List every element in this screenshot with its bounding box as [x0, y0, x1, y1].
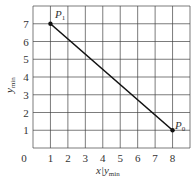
- y-tick-label: 4: [23, 71, 29, 83]
- label-p1: P1: [54, 8, 66, 22]
- x-axis-label: x|ymin: [95, 164, 120, 178]
- x-tick-label: 7: [152, 152, 158, 164]
- y-tick-label: 3: [23, 89, 29, 101]
- chart-svg: 0123456781234567 P1 P0 x|ymin ymin: [0, 0, 193, 189]
- y-tick-label: 1: [23, 124, 29, 136]
- x-tick-label: 1: [48, 152, 54, 164]
- x-tick-label: 4: [100, 152, 106, 164]
- y-tick-label: 2: [23, 107, 29, 119]
- x-tick-label: 8: [170, 152, 176, 164]
- x-tick-label: 3: [83, 152, 89, 164]
- point-p1: [48, 22, 52, 26]
- y-tick-label: 7: [23, 18, 29, 30]
- y-axis-label: ymin: [3, 77, 17, 94]
- label-p0: P0: [174, 119, 186, 133]
- x-tick-label: 0: [21, 152, 27, 164]
- x-tick-label: 5: [117, 152, 123, 164]
- y-tick-label: 6: [23, 36, 29, 48]
- tick-labels: 0123456781234567: [21, 18, 176, 164]
- x-tick-label: 2: [65, 152, 71, 164]
- y-tick-label: 5: [23, 53, 29, 65]
- x-tick-label: 6: [135, 152, 141, 164]
